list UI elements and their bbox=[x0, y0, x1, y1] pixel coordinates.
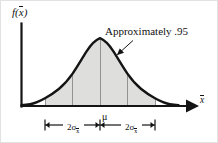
sigma-span-label-right-main: 2σ bbox=[125, 122, 134, 132]
bracket-arrow-left-out bbox=[46, 122, 50, 128]
overbar bbox=[19, 6, 24, 7]
x-bar-glyph: x bbox=[200, 96, 204, 106]
overbar bbox=[200, 95, 204, 96]
annotation-leader-line bbox=[118, 41, 134, 55]
x-axis-label: x bbox=[200, 96, 204, 106]
sigma-span-brackets bbox=[45, 120, 155, 131]
sigma-span-label-left-main: 2σ bbox=[67, 122, 76, 132]
sigma-span-label-left: 2σx bbox=[67, 123, 79, 135]
mean-label: μ bbox=[102, 112, 107, 122]
sigma-subscript-left: x bbox=[76, 128, 79, 134]
x-bar-glyph: x bbox=[19, 7, 24, 18]
y-axis-label: f(x) bbox=[12, 7, 27, 18]
normal-curve-figure: f(x) x Approximately .95 μ 2σx 2σx bbox=[0, 0, 218, 143]
bracket-arrow-right-in bbox=[101, 122, 105, 128]
sigma-span-label-right: 2σx bbox=[125, 123, 137, 135]
bracket-arrow-left-in bbox=[96, 122, 100, 128]
distribution-plot bbox=[1, 1, 218, 143]
sigma-subscript-right: x bbox=[134, 128, 137, 134]
probability-annotation: Approximately .95 bbox=[105, 26, 188, 37]
y-axis-label-text: f(x) bbox=[12, 6, 27, 18]
bracket-arrow-right-out bbox=[151, 122, 155, 128]
